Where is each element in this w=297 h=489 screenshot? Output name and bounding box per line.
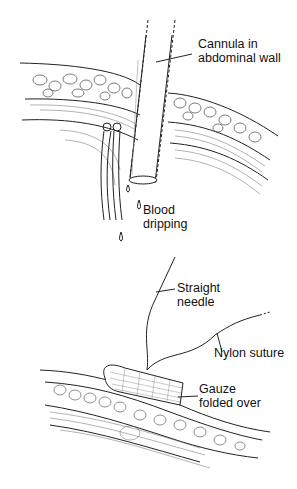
label-line: dripping xyxy=(143,217,187,231)
label-line: folded over xyxy=(199,396,261,410)
needle-icon xyxy=(146,257,270,397)
blood-drop-icon xyxy=(120,185,141,241)
label-gauze: Gauze folded over xyxy=(199,382,261,410)
label-suture: Nylon suture xyxy=(214,346,284,360)
label-line: Gauze xyxy=(199,382,261,396)
label-line: needle xyxy=(177,295,220,309)
gauze-icon xyxy=(104,365,183,405)
label-blood: Blood dripping xyxy=(143,203,187,231)
label-line: abdominal wall xyxy=(198,51,281,65)
illustration xyxy=(0,0,297,489)
cannula-icon xyxy=(129,20,192,184)
abdominal-wall-top xyxy=(20,63,278,220)
label-line: Cannula in xyxy=(198,37,281,51)
label-line: Blood xyxy=(143,203,187,217)
label-needle: Straight needle xyxy=(177,281,220,309)
label-line: Straight xyxy=(177,281,220,295)
label-cannula: Cannula in abdominal wall xyxy=(198,37,281,65)
